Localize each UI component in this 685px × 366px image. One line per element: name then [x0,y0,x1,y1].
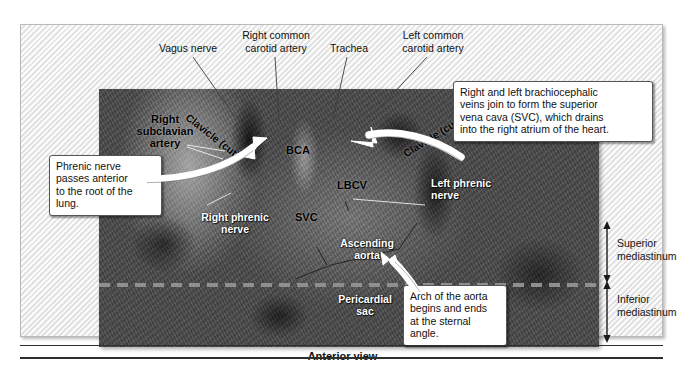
aortic-arch-arrow [373,251,433,297]
figure-frame: Right subclavian artery Clavicle (cut) C… [20,24,663,337]
callout-brachiocephalic-veins-text: Right and left brachiocephalic veins joi… [460,86,609,135]
callout-brachiocephalic-veins: Right and left brachiocephalic veins joi… [453,81,653,142]
brachiocephalic-veins-arrow [339,121,469,171]
phrenic-nerve-arrow [141,135,281,195]
mediastinum-arrows [601,221,615,341]
callout-phrenic-nerve-text: Phrenic nerve passes anterior to the roo… [56,160,132,209]
divider-rule-top [20,345,663,346]
label-superior-mediastinum: Superior mediastinum [617,237,677,262]
callout-aortic-arch-text: Arch of the aorta begins and ends at the… [410,290,488,339]
label-inferior-mediastinum: Inferior mediastinum [617,293,677,318]
anterior-view-caption: Anterior view [21,350,664,362]
divider-rule-bottom [20,357,663,359]
